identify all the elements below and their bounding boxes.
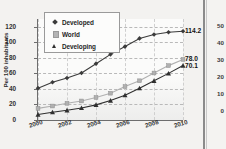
panel-divider [203,0,205,149]
adjacent-y-tick-label: 20 [217,73,224,80]
x-axis-tick-label: 2000 [28,118,43,129]
end-value-label: 114.2 [185,27,201,34]
screenshot-root: Per 100 inhabitants 020406080100120 2000… [0,0,226,149]
data-point-marker [166,30,171,35]
legend-label: Developing [62,43,96,50]
data-point-marker [152,78,157,83]
data-point-marker [123,44,128,49]
x-axis-tick-mark [182,120,183,123]
y-axis-tick-label: 40 [0,85,16,92]
adjacent-y-tick-label: 40 [217,39,224,46]
chart-legend: Developed World Developing [44,12,120,53]
x-axis-tick-mark [95,120,96,123]
data-point-marker [167,64,171,68]
adjacent-y-tick-label: 30 [217,56,224,63]
data-point-marker [123,93,128,98]
y-axis-tick-label: 120 [0,23,16,30]
data-point-marker [109,91,113,95]
data-point-marker [166,71,171,76]
data-point-marker [65,101,69,105]
x-axis-tick-mark [153,120,154,123]
y-axis-tick-label: 80 [0,54,16,61]
legend-item-developing: Developing [49,40,116,52]
y-axis-tick-label: 20 [0,100,16,107]
y-axis-tick-label: 100 [0,38,16,45]
y-axis-tick-label: 0 [0,116,16,123]
data-point-marker [137,86,142,91]
adjacent-y-tick-label: 10 [217,90,224,97]
adjacent-y-tick-label: 0 [221,107,224,114]
data-point-marker [36,86,41,91]
data-point-marker [51,104,55,108]
data-point-marker [152,32,157,37]
line-chart: Per 100 inhabitants 020406080100120 2000… [0,0,199,149]
legend-item-developed: Developed [49,16,116,28]
adjacent-chart-sliver: 50403020100 [207,0,226,149]
series-line-developing [38,66,183,115]
x-axis-tick-mark [66,120,67,123]
legend-label: World [62,31,80,38]
legend-label: Developed [62,19,94,26]
end-value-label: 70.1 [185,62,198,69]
x-axis-tick-mark [124,120,125,123]
data-point-marker [80,99,84,103]
data-point-marker [36,106,40,110]
data-point-marker [123,85,127,89]
x-axis-tick-mark [37,120,38,123]
data-point-marker [138,79,142,83]
vertical-gridline [183,19,184,120]
y-axis-tick-label: 60 [0,69,16,76]
data-point-marker [65,76,70,81]
triangle-marker-icon [49,42,62,51]
data-point-marker [94,96,98,100]
diamond-marker-icon [49,18,62,27]
legend-item-world: World [49,28,116,40]
data-point-marker [152,71,156,75]
data-point-marker [137,36,142,41]
square-marker-icon [49,30,62,39]
adjacent-y-tick-label: 50 [217,22,224,29]
data-point-marker [50,80,55,85]
